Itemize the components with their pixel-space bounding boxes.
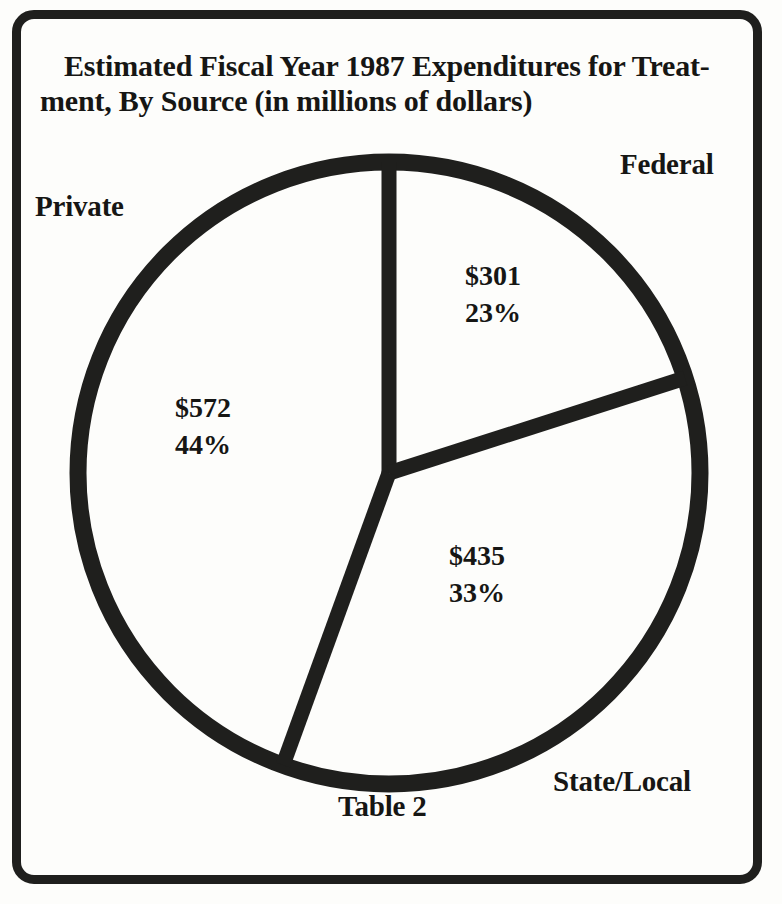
pie-category-label-private: Private — [35, 190, 124, 223]
chart-title-line-1: Estimated Fiscal Year 1987 Expenditures … — [40, 48, 756, 83]
pie-slice-amount-private: $572 — [143, 390, 263, 427]
pie-category-label-federal: Federal — [620, 148, 714, 181]
figure-root: Estimated Fiscal Year 1987 Expenditures … — [0, 0, 782, 904]
chart-title-line-2: ment, By Source (in millions of dollars) — [40, 83, 756, 118]
pie-slice-value-state-local: $435 33% — [417, 538, 537, 612]
pie-slice-percent-state-local: 33% — [417, 575, 537, 612]
pie-slice-percent-private: 44% — [143, 427, 263, 464]
pie-slice-amount-state-local: $435 — [417, 538, 537, 575]
pie-slice-amount-federal: $301 — [433, 258, 553, 295]
chart-title: Estimated Fiscal Year 1987 Expenditures … — [40, 48, 756, 119]
pie-slice-percent-federal: 23% — [433, 295, 553, 332]
pie-category-label-state-local: State/Local — [553, 765, 691, 798]
pie-slice-value-federal: $301 23% — [433, 258, 553, 332]
figure-caption: Table 2 — [338, 790, 427, 823]
pie-slice-value-private: $572 44% — [143, 390, 263, 464]
